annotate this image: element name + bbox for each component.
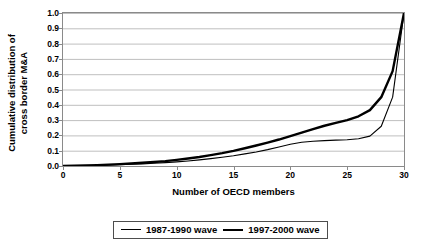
y-tick-mark (59, 74, 63, 75)
legend-line-swatch-thin (121, 229, 141, 230)
x-tick-mark (347, 166, 348, 170)
y-tick-mark (59, 151, 63, 152)
x-tick-mark (290, 166, 291, 170)
x-tick-mark (404, 166, 405, 170)
x-tick-label: 5 (117, 170, 122, 180)
x-tick-mark (177, 166, 178, 170)
legend-label-1997-2000-wave: 1997-2000 wave (248, 224, 319, 235)
y-tick-mark (59, 13, 63, 14)
x-tick-label: 10 (172, 170, 181, 180)
y-tick-mark (59, 135, 63, 136)
y-tick-mark (59, 90, 63, 91)
y-tick-mark (59, 28, 63, 29)
legend-item-1997-2000-wave: 1997-2000 wave (223, 224, 319, 235)
x-tick-label: 15 (229, 170, 238, 180)
y-tick-mark (59, 166, 63, 167)
legend-item-1987-1990-wave: 1987-1990 wave (121, 224, 217, 235)
x-tick-mark (120, 166, 121, 170)
legend-line-swatch-thick (223, 229, 243, 231)
chart-figure: Cumulative distribution of cross border … (0, 0, 425, 252)
legend-label-1987-1990-wave: 1987-1990 wave (146, 224, 217, 235)
y-tick-mark (59, 105, 63, 106)
x-axis-tick-labels: 051015202530 (0, 0, 425, 252)
y-tick-mark (59, 120, 63, 121)
x-tick-label: 25 (342, 170, 351, 180)
x-tick-mark (63, 166, 64, 170)
x-axis-title: Number of OECD members (62, 186, 405, 197)
x-tick-label: 0 (61, 170, 66, 180)
x-tick-label: 20 (286, 170, 295, 180)
chart-legend: 1987-1990 wave 1997-2000 wave (113, 221, 328, 239)
y-tick-mark (59, 59, 63, 60)
y-tick-mark (59, 44, 63, 45)
x-tick-mark (234, 166, 235, 170)
x-tick-label: 30 (399, 170, 408, 180)
